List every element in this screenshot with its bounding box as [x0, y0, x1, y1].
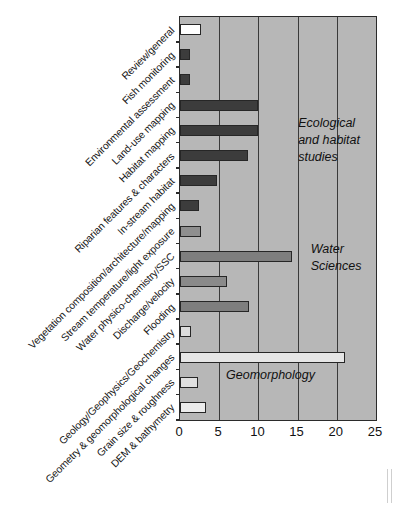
annotation-line-1: Ecological	[298, 115, 360, 132]
bar-row	[180, 219, 376, 244]
bar-row	[180, 168, 376, 193]
page-edge-mark	[387, 469, 392, 503]
bar	[180, 226, 201, 237]
bar	[180, 74, 190, 85]
bar-row	[180, 42, 376, 67]
bar	[180, 175, 217, 186]
bar	[180, 326, 191, 337]
bar	[180, 377, 198, 388]
y-axis-tick	[176, 419, 180, 421]
annotation-ecological-and-habitat-studies: Ecological and habitat studies	[298, 115, 360, 166]
x-tick-label-20: 20	[321, 424, 351, 439]
bar-row	[180, 294, 376, 319]
annotation-line-1: Water	[311, 241, 362, 258]
bar	[180, 200, 199, 211]
x-tick-label-5: 5	[203, 424, 233, 439]
plot-area	[179, 16, 377, 421]
bar	[180, 301, 249, 312]
x-tick-label-10: 10	[242, 424, 272, 439]
bar	[180, 125, 258, 136]
bar	[180, 49, 190, 60]
annotation-line-2: and habitat	[298, 132, 360, 149]
x-tick-label-25: 25	[360, 424, 390, 439]
bar	[180, 24, 201, 35]
bar-row	[180, 17, 376, 42]
bar-row	[180, 319, 376, 344]
annotation-line-2: Sciences	[311, 258, 362, 275]
bar-row	[180, 67, 376, 92]
bar-row	[180, 395, 376, 420]
bar	[180, 352, 345, 363]
bar	[180, 150, 248, 161]
bar-chart-figure: 0 5 10 15 20 25 Ecological and habitat s…	[0, 0, 394, 506]
x-tick-label-15: 15	[282, 424, 312, 439]
bar-row	[180, 344, 376, 369]
annotation-geomorphology: Geomorphology	[226, 367, 315, 384]
bar-row	[180, 193, 376, 218]
annotation-water-sciences: Water Sciences	[311, 241, 362, 275]
x-tick-label-0: 0	[164, 424, 194, 439]
bar	[180, 100, 258, 111]
bar	[180, 251, 292, 262]
bar	[180, 402, 206, 413]
bar	[180, 276, 227, 287]
annotation-line-3: studies	[298, 149, 360, 166]
bar-row	[180, 93, 376, 118]
